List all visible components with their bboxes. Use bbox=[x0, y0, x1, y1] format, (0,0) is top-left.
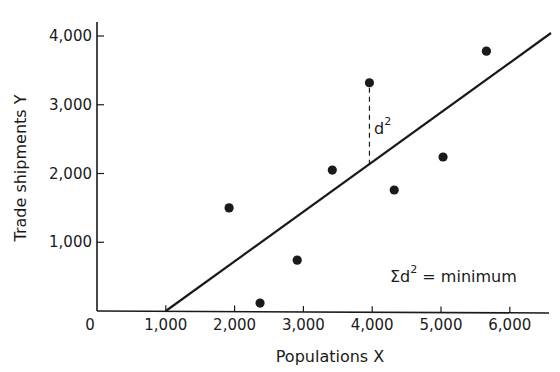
svg-text:Σd2 = minimum: Σd2 = minimum bbox=[390, 263, 517, 286]
residual-d: d bbox=[374, 119, 384, 138]
x-tick-label: 3,000 bbox=[282, 316, 325, 334]
scatter-chart: 1,0002,0003,0004,0005,0006,0001,0002,000… bbox=[0, 0, 560, 372]
x-tick-label: 1,000 bbox=[144, 316, 187, 334]
x-tick-label: 6,000 bbox=[488, 316, 531, 334]
data-point bbox=[255, 298, 264, 307]
x-axis-title: Populations X bbox=[276, 347, 384, 366]
data-point bbox=[328, 165, 337, 174]
origin-label: 0 bbox=[85, 316, 95, 334]
minimum-annotation: Σd2 = minimum bbox=[390, 263, 517, 286]
sigma-d: Σd bbox=[390, 267, 410, 286]
x-axis-line bbox=[97, 311, 549, 313]
svg-text:d2: d2 bbox=[374, 115, 391, 138]
data-point bbox=[482, 47, 491, 56]
y-tick-label: 1,000 bbox=[49, 233, 92, 251]
sigma-sup: 2 bbox=[410, 263, 417, 276]
x-tick-label: 2,000 bbox=[213, 316, 256, 334]
data-point bbox=[293, 256, 302, 265]
residual-sup: 2 bbox=[384, 115, 391, 128]
x-tick-label: 4,000 bbox=[351, 316, 394, 334]
y-tick-label: 3,000 bbox=[49, 96, 92, 114]
y-tick-label: 4,000 bbox=[49, 27, 92, 45]
data-point bbox=[390, 185, 399, 194]
y-axis-title: Trade shipments Y bbox=[11, 94, 30, 242]
ticks: 1,0002,0003,0004,0005,0006,0001,0002,000… bbox=[49, 27, 531, 334]
minimum-text: = minimum bbox=[417, 267, 517, 286]
y-tick-label: 2,000 bbox=[49, 165, 92, 183]
x-tick-label: 5,000 bbox=[420, 316, 463, 334]
data-point bbox=[438, 152, 447, 161]
residual-label: d2 bbox=[374, 115, 391, 138]
data-point bbox=[365, 78, 374, 87]
data-point bbox=[224, 203, 233, 212]
